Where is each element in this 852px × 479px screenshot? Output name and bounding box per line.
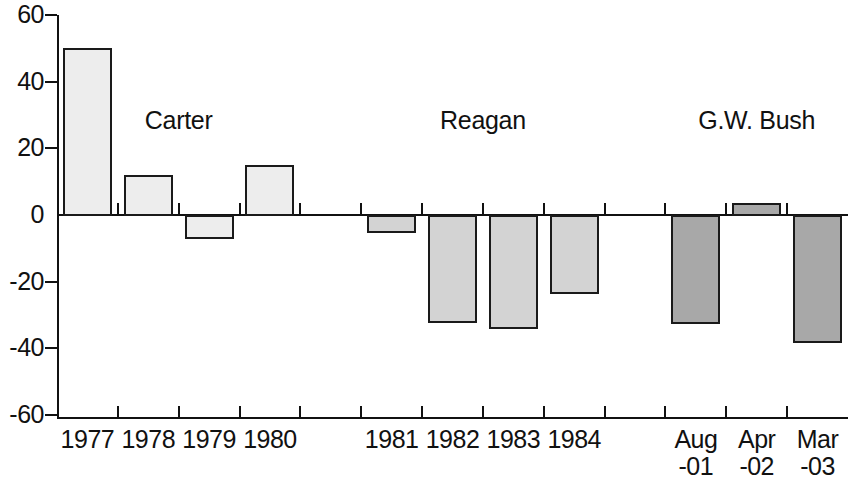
y-axis-tick: [45, 14, 57, 16]
x-axis-tick: [543, 406, 545, 417]
x-axis-tick: [604, 203, 606, 215]
x-axis-tick: [786, 203, 788, 215]
x-axis-tick: [604, 406, 606, 417]
y-axis-label-wrap: -40: [0, 335, 44, 360]
x-axis-tick-label: 1980: [210, 426, 330, 453]
y-axis-tick-label: 60: [0, 2, 44, 27]
x-axis-tick: [482, 406, 484, 417]
x-axis-tick: [239, 406, 241, 417]
x-axis-tick: [725, 203, 727, 215]
x-axis-tick-label-line: 1984: [514, 426, 634, 453]
y-axis-tick: [45, 147, 57, 149]
y-axis-tick: [45, 347, 57, 349]
x-axis-tick: [725, 406, 727, 417]
y-axis-label-wrap: 60: [0, 2, 44, 27]
y-axis-label-wrap: 0: [0, 202, 44, 227]
group-label-reagan: Reagan: [363, 108, 603, 133]
y-axis-tick: [45, 414, 57, 416]
x-axis-tick: [239, 203, 241, 215]
group-label-carter: Carter: [59, 108, 299, 133]
y-axis-line: [57, 15, 59, 418]
x-axis-tick: [482, 203, 484, 215]
bar: [793, 215, 842, 343]
x-axis-tick: [664, 203, 666, 215]
bar: [489, 215, 538, 329]
y-axis-tick-label: 40: [0, 69, 44, 94]
x-axis-tick: [299, 203, 301, 215]
x-axis-tick-label: Mar-03: [758, 426, 852, 479]
y-axis-tick-label: -40: [0, 335, 44, 360]
x-axis-tick-label-line: 1980: [210, 426, 330, 453]
bar: [428, 215, 477, 323]
y-axis-label-wrap: 20: [0, 135, 44, 160]
y-axis-tick: [45, 281, 57, 283]
x-axis-tick-label-line: -03: [758, 453, 852, 479]
y-axis-tick-label: 0: [0, 202, 44, 227]
y-axis-tick-label: -20: [0, 269, 44, 294]
x-axis-tick: [421, 406, 423, 417]
x-axis-tick: [360, 406, 362, 417]
x-axis-tick: [117, 203, 119, 215]
y-axis-label-wrap: 40: [0, 69, 44, 94]
x-axis-tick: [664, 406, 666, 417]
bar: [124, 175, 173, 216]
x-axis-tick: [299, 406, 301, 417]
y-axis-tick-label: 20: [0, 135, 44, 160]
bar: [185, 215, 234, 239]
x-axis-line: [57, 417, 848, 419]
bar: [245, 165, 294, 216]
x-axis-tick: [786, 406, 788, 417]
bar: [732, 203, 781, 216]
x-axis-tick: [543, 203, 545, 215]
x-axis-tick-label-line: Mar: [758, 426, 852, 453]
x-axis-tick: [421, 203, 423, 215]
bar: [550, 215, 599, 294]
x-axis-tick: [360, 203, 362, 215]
y-axis-label-wrap: -60: [0, 402, 44, 427]
x-axis-tick: [178, 406, 180, 417]
bar: [367, 215, 416, 233]
x-axis-tick: [117, 406, 119, 417]
y-axis-tick-label: -60: [0, 402, 44, 427]
y-axis-label-wrap: -20: [0, 269, 44, 294]
x-axis-tick: [178, 203, 180, 215]
x-axis-tick-label: 1984: [514, 426, 634, 453]
group-label-g-w-bush: G.W. Bush: [637, 108, 852, 133]
bar: [671, 215, 720, 324]
y-axis-tick: [45, 81, 57, 83]
